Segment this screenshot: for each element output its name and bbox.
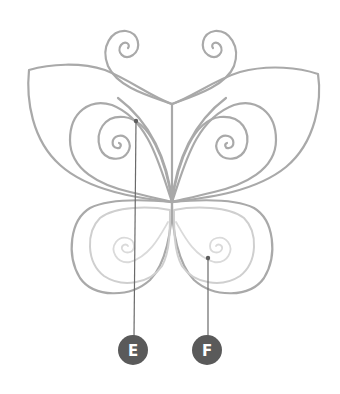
left-antenna [105, 31, 172, 104]
lower-left-spiral [114, 222, 168, 262]
butterfly-diagram: E F [0, 0, 340, 394]
lower-left-inner-loop [90, 208, 170, 283]
right-antenna [172, 31, 236, 104]
callout-f: F [192, 256, 222, 365]
upper-wings [28, 65, 319, 202]
callout-f-label: F [202, 342, 212, 360]
callout-e-anchor-dot [134, 119, 138, 123]
upper-left-inner-loop [70, 103, 172, 202]
lower-wings [72, 200, 273, 293]
lower-right-inner-loop [174, 208, 254, 283]
callout-e-leader-line [134, 121, 136, 336]
lower-right-spiral [176, 222, 230, 262]
callout-e-label: E [128, 342, 138, 360]
upper-right-spiral [172, 117, 247, 202]
callout-f-anchor-dot [206, 256, 210, 260]
antennae [105, 31, 236, 104]
upper-right-inner-loop [172, 103, 276, 202]
